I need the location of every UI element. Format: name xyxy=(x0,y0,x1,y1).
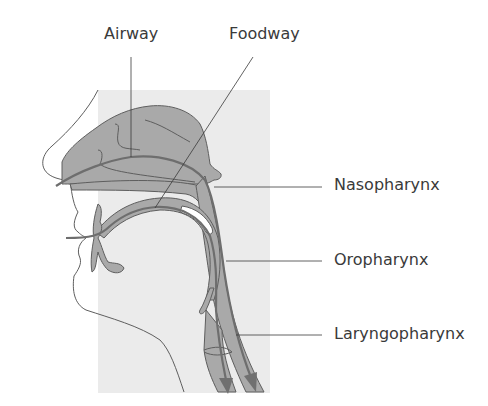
nasopharynx-label: Nasopharynx xyxy=(334,177,440,193)
pharynx-diagram: Airway Foodway Nasopharynx Oropharynx La… xyxy=(0,0,488,406)
foodway-label: Foodway xyxy=(229,26,300,42)
airway-label: Airway xyxy=(104,26,158,42)
laryngopharynx-label: Laryngopharynx xyxy=(334,326,465,342)
pharynx-illustration xyxy=(0,0,488,406)
oropharynx-label: Oropharynx xyxy=(334,252,428,268)
